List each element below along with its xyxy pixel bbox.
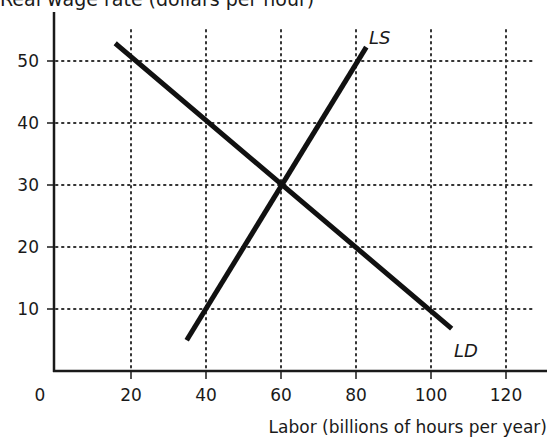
x-tick-label: 100 xyxy=(415,385,447,405)
origin-label: 0 xyxy=(35,385,46,405)
y-tick-label: 40 xyxy=(17,113,39,133)
y-tick-label: 20 xyxy=(17,237,39,257)
x-tick-label: 80 xyxy=(345,385,367,405)
y-tick-label: 10 xyxy=(17,299,39,319)
y-tick-label: 30 xyxy=(17,175,39,195)
ls-curve xyxy=(188,49,365,338)
x-tick-label: 120 xyxy=(490,385,522,405)
x-tick-label: 40 xyxy=(195,385,217,405)
x-tick-label: 20 xyxy=(120,385,142,405)
curves: LSLD xyxy=(117,27,478,361)
ld-label: LD xyxy=(454,340,478,361)
y-tick-label: 50 xyxy=(17,51,39,71)
tick-labels: 1020304050204060801001200 xyxy=(17,51,522,405)
chart: 1020304050204060801001200 LSLD Labor (bi… xyxy=(0,0,560,446)
x-axis-label: Labor (billions of hours per year) xyxy=(269,417,547,437)
ls-label: LS xyxy=(369,27,390,48)
gridlines xyxy=(56,30,536,371)
x-tick-label: 60 xyxy=(270,385,292,405)
